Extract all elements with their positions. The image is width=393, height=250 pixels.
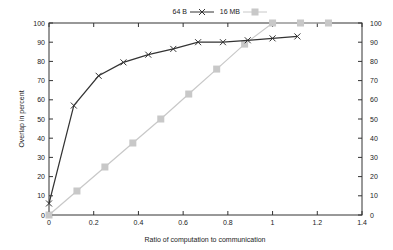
square-marker-icon <box>101 164 108 171</box>
x-tick-label: 0.6 <box>178 219 188 226</box>
square-marker-icon <box>241 41 248 48</box>
series-layer <box>46 20 332 219</box>
y-tick-label: 50 <box>37 116 45 123</box>
y2-tick-label: 70 <box>370 77 378 84</box>
series-16mb <box>46 20 332 219</box>
line-chart: 00.20.40.60.811.21.4 0102030405060708090… <box>0 0 393 250</box>
x-axis-ticks: 00.20.40.60.811.21.4 <box>47 23 367 226</box>
x-tick-label: 0.4 <box>134 219 144 226</box>
y-axis-title: Overlap in percent <box>18 90 26 147</box>
y-tick-label: 0 <box>41 212 45 219</box>
x-tick-label: 0.2 <box>89 219 99 226</box>
y2-tick-label: 10 <box>370 192 378 199</box>
y-tick-label: 10 <box>37 192 45 199</box>
y-tick-label: 30 <box>37 154 45 161</box>
square-marker-icon <box>213 66 220 73</box>
square-marker-icon <box>269 20 276 27</box>
x-tick-label: 1.2 <box>312 219 322 226</box>
square-marker-icon <box>46 212 53 219</box>
y2-tick-label: 20 <box>370 173 378 180</box>
y-tick-label: 40 <box>37 135 45 142</box>
plot-frame <box>49 23 362 215</box>
y-tick-label: 20 <box>37 173 45 180</box>
x-tick-label: 1.4 <box>357 219 367 226</box>
y-axis-ticks: 0102030405060708090100 <box>33 20 53 219</box>
y2-tick-label: 80 <box>370 58 378 65</box>
y-tick-label: 60 <box>37 96 45 103</box>
x-axis-title: Ratio of computation to communication <box>144 236 265 244</box>
legend-swatch-16mb <box>243 9 267 16</box>
y-tick-label: 80 <box>37 58 45 65</box>
legend: 64 B 16 MB <box>173 8 267 16</box>
y-tick-label: 90 <box>37 39 45 46</box>
x-marker-icon <box>96 73 102 79</box>
square-marker-icon <box>129 140 136 147</box>
y-tick-label: 100 <box>33 20 45 27</box>
square-marker-icon <box>157 116 164 123</box>
x-tick-label: 0.8 <box>223 219 233 226</box>
y-tick-label: 70 <box>37 77 45 84</box>
legend-label-64b: 64 B <box>173 8 188 15</box>
y2-tick-label: 50 <box>370 116 378 123</box>
x-tick-label: 0 <box>47 219 51 226</box>
legend-label-16mb: 16 MB <box>220 8 241 15</box>
y2-tick-label: 0 <box>370 212 374 219</box>
square-marker-icon <box>325 20 332 27</box>
square-marker-icon <box>252 9 259 16</box>
square-marker-icon <box>297 20 304 27</box>
y2-tick-label: 30 <box>370 154 378 161</box>
series-64b <box>46 33 300 206</box>
square-marker-icon <box>185 91 192 98</box>
y2-tick-label: 60 <box>370 96 378 103</box>
y2-tick-label: 100 <box>370 20 382 27</box>
square-marker-icon <box>73 188 80 195</box>
x-tick-label: 1 <box>271 219 275 226</box>
plot-border <box>49 23 362 215</box>
y2-tick-label: 90 <box>370 39 378 46</box>
legend-swatch-64b <box>190 9 214 15</box>
y2-tick-label: 40 <box>370 135 378 142</box>
